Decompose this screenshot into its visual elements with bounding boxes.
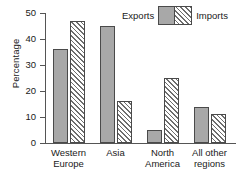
legend-label-exports: Exports <box>122 10 154 21</box>
x-axis-line <box>45 143 236 144</box>
bar-imports-1 <box>117 101 132 143</box>
x-axis-label-0: Western Europe <box>45 147 92 169</box>
chart-legend: Exports Imports <box>122 6 228 25</box>
x-axis-label-1: Asia <box>92 147 139 158</box>
bar-imports-0 <box>70 21 85 143</box>
bar-imports-2 <box>164 78 179 143</box>
bar-exports-1 <box>100 26 115 143</box>
y-axis-tick-label: 30 <box>0 59 36 70</box>
y-axis-tick-label: 40 <box>0 33 36 44</box>
legend-swatch-group <box>158 6 192 25</box>
legend-label-imports: Imports <box>196 10 228 21</box>
y-axis-tick-label: 50 <box>0 7 36 18</box>
y-axis-tick-mark <box>40 143 45 144</box>
legend-swatch-imports-icon <box>175 7 191 24</box>
y-axis-tick-label: 10 <box>0 111 36 122</box>
plot-area <box>45 13 233 143</box>
bar-exports-2 <box>147 130 162 143</box>
y-axis-tick-label: 0 <box>0 137 36 148</box>
bar-exports-0 <box>53 49 68 143</box>
bar-exports-3 <box>194 107 209 143</box>
x-axis-label-3: All other regions <box>186 147 233 169</box>
bar-imports-3 <box>211 114 226 143</box>
y-axis-tick-label: 20 <box>0 85 36 96</box>
bar-chart: Percentage 01020304050 Western EuropeAsi… <box>0 0 249 179</box>
legend-swatch-exports-icon <box>159 7 175 24</box>
x-axis-label-2: North America <box>139 147 186 169</box>
